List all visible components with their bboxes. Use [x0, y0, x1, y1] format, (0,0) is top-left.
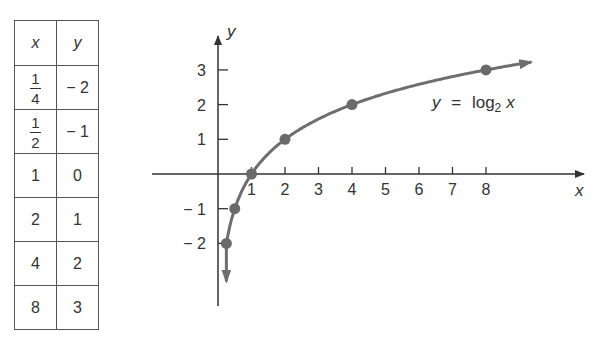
y-tick-label: 1: [197, 131, 206, 148]
y-tick-label: − 1: [183, 201, 206, 218]
x-tick-label: 5: [381, 181, 390, 198]
data-point: [221, 238, 232, 249]
x-tick-label: 4: [348, 181, 357, 198]
data-point: [481, 64, 492, 75]
y-axis-label: y: [226, 22, 237, 41]
y-ticks: 321− 1− 2: [183, 62, 228, 253]
data-point: [347, 99, 358, 110]
data-point: [229, 203, 240, 214]
x-tick-label: 7: [448, 181, 457, 198]
log-curve: [226, 62, 531, 243]
function-label: y = log2x: [431, 93, 515, 115]
x-tick-label: 2: [281, 181, 290, 198]
x-tick-label: 6: [415, 181, 424, 198]
y-tick-label: − 2: [183, 235, 206, 252]
data-point: [280, 134, 291, 145]
x-tick-label: 3: [314, 181, 323, 198]
x-ticks: 12345678: [247, 167, 491, 198]
y-tick-label: 3: [197, 62, 206, 79]
x-tick-label: 1: [247, 181, 256, 198]
log-graph: 12345678 321− 1− 2 y x y = log2x: [0, 0, 599, 346]
data-point: [246, 169, 257, 180]
x-tick-label: 8: [482, 181, 491, 198]
y-tick-label: 2: [197, 97, 206, 114]
x-axis-label: x: [574, 181, 584, 200]
